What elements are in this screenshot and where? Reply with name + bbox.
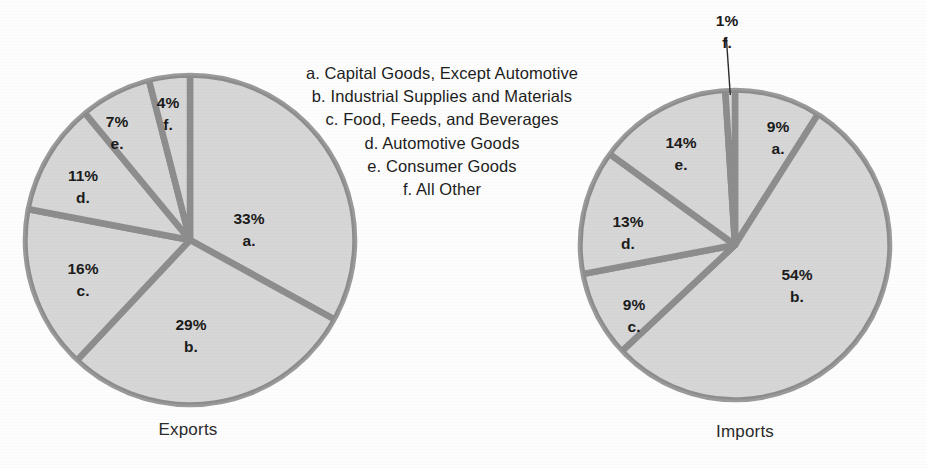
imports-caption: Imports — [575, 422, 915, 442]
imports-pct-f: 1% — [699, 10, 755, 32]
imports-slice-label-d: 13% d. — [595, 211, 661, 256]
legend-item-b: b. Industrial Supplies and Materials — [296, 85, 588, 108]
imports-key-c: c. — [604, 316, 664, 338]
legend: a. Capital Goods, Except Automotive b. I… — [296, 62, 588, 201]
exports-key-b: b. — [156, 336, 226, 358]
imports-key-e: e. — [648, 154, 714, 176]
imports-slice-label-b: 54% b. — [762, 264, 832, 309]
imports-pct-a: 9% — [748, 116, 808, 138]
exports-pct-e: 7% — [87, 111, 147, 133]
exports-key-a: a. — [214, 230, 284, 252]
exports-slice-label-d: 11% d. — [48, 165, 118, 210]
imports-slice-label-e: 14% e. — [648, 132, 714, 177]
exports-key-d: d. — [48, 187, 118, 209]
exports-pct-f: 4% — [140, 92, 196, 114]
imports-pct-e: 14% — [648, 132, 714, 154]
legend-item-d: d. Automotive Goods — [296, 132, 588, 155]
pie-chart-figure: 33% a. 29% b. 16% c. 11% d. 7% e. 4% f. … — [0, 0, 927, 468]
imports-key-b: b. — [762, 286, 832, 308]
exports-pct-b: 29% — [156, 314, 226, 336]
imports-slice-label-a: 9% a. — [748, 116, 808, 161]
exports-key-c: c. — [48, 280, 118, 302]
legend-item-f: f. All Other — [296, 178, 588, 201]
exports-slice-label-f: 4% f. — [140, 92, 196, 137]
exports-key-f: f. — [140, 114, 196, 136]
exports-slice-label-c: 16% c. — [48, 258, 118, 303]
exports-slice-label-e: 7% e. — [87, 111, 147, 156]
exports-caption: Exports — [18, 420, 358, 440]
exports-slice-label-b: 29% b. — [156, 314, 226, 359]
imports-slice-label-c: 9% c. — [604, 294, 664, 339]
legend-item-e: e. Consumer Goods — [296, 155, 588, 178]
imports-key-f: f. — [699, 32, 755, 54]
exports-key-e: e. — [87, 133, 147, 155]
imports-pct-b: 54% — [762, 264, 832, 286]
exports-pct-c: 16% — [48, 258, 118, 280]
imports-chart: 9% a. 54% b. 9% c. 13% d. 14% e. 1% f. I… — [575, 56, 925, 454]
exports-slice-label-a: 33% a. — [214, 208, 284, 253]
imports-pct-d: 13% — [595, 211, 661, 233]
exports-pct-d: 11% — [48, 165, 118, 187]
imports-pct-c: 9% — [604, 294, 664, 316]
imports-key-a: a. — [748, 138, 808, 160]
exports-pct-a: 33% — [214, 208, 284, 230]
legend-item-a: a. Capital Goods, Except Automotive — [296, 62, 588, 85]
imports-slice-label-f: 1% f. — [699, 10, 755, 55]
imports-key-d: d. — [595, 233, 661, 255]
legend-item-c: c. Food, Feeds, and Beverages — [296, 108, 588, 131]
